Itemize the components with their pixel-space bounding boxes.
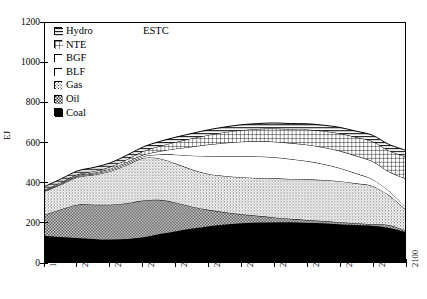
x-tick-mark [241, 259, 242, 267]
legend-item-coal[interactable]: Coal [54, 106, 93, 120]
legend-swatch-coal-icon [54, 108, 62, 116]
y-tick-mark [40, 182, 48, 183]
legend-swatch-hydro-icon [54, 27, 62, 35]
x-tick-mark [307, 259, 308, 267]
legend-item-nte[interactable]: NTE [54, 38, 93, 52]
legend-swatch-gas-icon [54, 81, 62, 89]
chart-root: EJ 120010008006004002000 199020002010202… [0, 0, 427, 299]
chart-annotation-estc: ESTC [143, 25, 169, 36]
y-tick-mark [40, 22, 48, 23]
legend-item-bgf[interactable]: BGF [54, 51, 93, 65]
legend-label: Oil [66, 92, 79, 106]
legend-label: NTE [66, 38, 86, 52]
y-tick-mark [40, 102, 48, 103]
stacked-area-svg [45, 23, 405, 262]
x-tick-mark [373, 259, 374, 267]
x-tick-mark [175, 259, 176, 267]
legend-label: BLF [66, 65, 85, 79]
x-tick-mark [109, 259, 110, 267]
y-tick-mark [40, 142, 48, 143]
legend-swatch-nte-icon [54, 40, 62, 48]
x-tick-mark [142, 259, 143, 267]
legend-label: Gas [66, 78, 82, 92]
legend-item-blf[interactable]: BLF [54, 65, 93, 79]
x-tick-label: 2100 [410, 250, 420, 267]
legend-label: Hydro [66, 24, 93, 38]
legend-label: Coal [66, 106, 86, 120]
x-tick-mark [340, 259, 341, 267]
y-tick-mark [40, 222, 48, 223]
legend-item-oil[interactable]: Oil [54, 92, 93, 106]
legend-item-gas[interactable]: Gas [54, 78, 93, 92]
legend-swatch-blf-icon [54, 68, 62, 76]
legend: HydroNTEBGFBLFGasOilCoal [54, 24, 93, 119]
legend-item-hydro[interactable]: Hydro [54, 24, 93, 38]
x-tick-mark [274, 259, 275, 267]
x-tick-mark [44, 259, 45, 267]
y-tick-mark [40, 62, 48, 63]
x-tick-mark [76, 259, 77, 267]
x-tick-mark [208, 259, 209, 267]
legend-label: BGF [66, 51, 86, 65]
plot-area [44, 22, 406, 263]
legend-swatch-oil-icon [54, 95, 62, 103]
legend-swatch-bgf-icon [54, 54, 62, 62]
x-tick-mark [406, 259, 407, 267]
